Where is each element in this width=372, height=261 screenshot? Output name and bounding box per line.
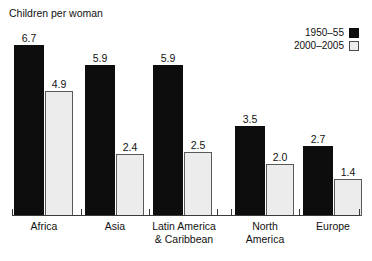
category-label-line: America <box>246 233 285 245</box>
bar-value: 3.5 <box>243 113 258 125</box>
bar-value: 2.5 <box>191 139 206 151</box>
category-label-africa: Africa <box>14 220 74 233</box>
axis-tick <box>299 209 300 216</box>
category-label-line: Latin America <box>152 220 216 232</box>
bar-value: 2.0 <box>273 151 288 163</box>
bar-asia-1950-55: 5.9 <box>85 65 115 216</box>
axis-tick <box>231 209 232 216</box>
bar-value: 2.7 <box>311 133 326 145</box>
axis-tick <box>81 209 82 216</box>
bar-north-america-2000-2005: 2.0 <box>266 164 294 216</box>
category-label-europe: Europe <box>303 220 363 233</box>
category-label-line: Asia <box>105 220 125 232</box>
bar-value: 5.9 <box>161 52 176 64</box>
axis-tick <box>359 209 360 216</box>
bar-latin-america-1950-55: 5.9 <box>153 65 183 216</box>
bar-latin-america-2000-2005: 2.5 <box>184 152 212 216</box>
bar-north-america-1950-55: 3.5 <box>235 126 265 216</box>
bar-value: 2.4 <box>123 141 138 153</box>
axis-tick <box>12 209 13 216</box>
bar-value: 5.9 <box>93 52 108 64</box>
category-label-line: Africa <box>31 220 58 232</box>
bar-africa-1950-55: 6.7 <box>14 45 44 216</box>
bar-africa-2000-2005: 4.9 <box>45 91 73 216</box>
bar-asia-2000-2005: 2.4 <box>116 154 144 216</box>
bar-value: 6.7 <box>22 32 37 44</box>
x-axis-line <box>12 215 360 216</box>
axis-tick <box>149 209 150 216</box>
bar-value: 4.9 <box>52 78 67 90</box>
category-label-latin-america-caribbean: Latin America & Caribbean <box>124 220 244 246</box>
plot-area: 6.7 4.9 5.9 2.4 5.9 2.5 <box>0 0 372 216</box>
bar-europe-2000-2005: 1.4 <box>334 179 362 216</box>
bar-chart: Children per woman 1950–55 2000–2005 6.7… <box>0 0 372 261</box>
category-label-north-america: North America <box>235 220 295 246</box>
category-label-line: Europe <box>316 220 350 232</box>
axis-tick <box>217 209 218 216</box>
category-label-line: & Caribbean <box>155 233 213 245</box>
bar-value: 1.4 <box>341 166 356 178</box>
bar-europe-1950-55: 2.7 <box>303 146 333 216</box>
category-label-line: North <box>252 220 278 232</box>
